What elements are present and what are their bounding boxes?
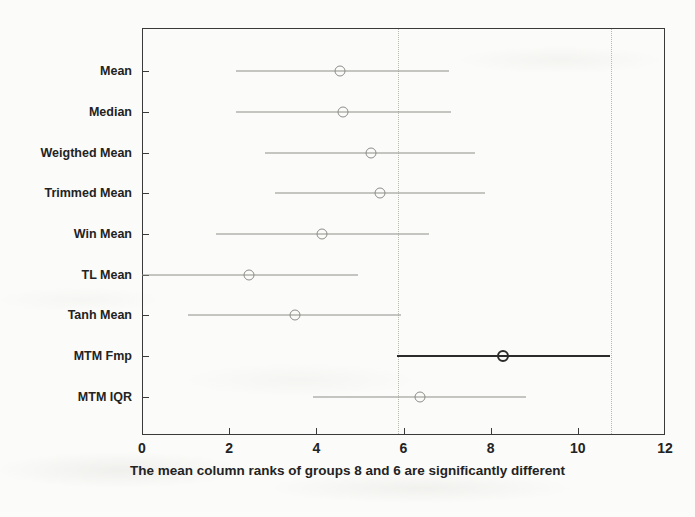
interval-marker-win-mean — [316, 228, 327, 239]
y-label-tl-mean: TL Mean — [0, 268, 132, 282]
y-label-mtm-iqr: MTM IQR — [0, 390, 132, 404]
y-tick-median — [142, 112, 149, 113]
y-label-median: Median — [0, 105, 132, 119]
x-tick-label-2: 2 — [225, 440, 233, 456]
x-tick-label-6: 6 — [400, 440, 408, 456]
x-tick-2 — [229, 428, 230, 435]
interval-marker-weigthed-mean — [365, 147, 376, 158]
y-tick-tanh-mean — [142, 315, 149, 316]
comparison-interval-chart: MeanMedianWeigthed MeanTrimmed MeanWin M… — [0, 0, 695, 517]
interval-marker-trimmed-mean — [375, 188, 386, 199]
y-tick-mtm-fmp — [142, 356, 149, 357]
interval-marker-mtm-fmp — [497, 350, 509, 362]
x-tick-6 — [404, 428, 405, 435]
y-label-weigthed-mean: Weigthed Mean — [0, 146, 132, 160]
interval-marker-mean — [335, 66, 346, 77]
y-tick-win-mean — [142, 234, 149, 235]
reference-line-0 — [398, 29, 399, 434]
x-tick-label-4: 4 — [312, 440, 320, 456]
y-tick-mtm-iqr — [142, 397, 149, 398]
interval-marker-tl-mean — [243, 269, 254, 280]
x-tick-10 — [578, 428, 579, 435]
y-label-win-mean: Win Mean — [0, 227, 132, 241]
x-tick-8 — [491, 428, 492, 435]
y-label-trimmed-mean: Trimmed Mean — [0, 186, 132, 200]
x-tick-4 — [316, 428, 317, 435]
y-tick-weigthed-mean — [142, 153, 149, 154]
reference-line-1 — [611, 29, 612, 434]
interval-marker-median — [338, 106, 349, 117]
x-tick-label-10: 10 — [570, 440, 586, 456]
plot-area — [142, 28, 665, 435]
y-label-mean: Mean — [0, 64, 132, 78]
interval-marker-mtm-iqr — [415, 391, 426, 402]
y-tick-mean — [142, 71, 149, 72]
x-tick-label-8: 8 — [487, 440, 495, 456]
y-label-tanh-mean: Tanh Mean — [0, 308, 132, 322]
y-tick-trimmed-mean — [142, 193, 149, 194]
interval-marker-tanh-mean — [290, 310, 301, 321]
x-tick-label-0: 0 — [138, 440, 146, 456]
x-tick-label-12: 12 — [657, 440, 673, 456]
x-axis-caption: The mean column ranks of groups 8 and 6 … — [0, 463, 695, 478]
y-label-mtm-fmp: MTM Fmp — [0, 349, 132, 363]
